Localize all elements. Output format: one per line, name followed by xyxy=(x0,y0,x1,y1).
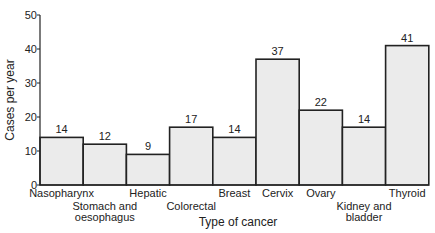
bar-value-label: 22 xyxy=(315,96,327,108)
bar-value-label: 14 xyxy=(358,113,370,125)
x-tick-label: Ovary xyxy=(306,187,336,199)
bar xyxy=(342,127,385,185)
bar-value-label: 37 xyxy=(271,45,283,57)
y-tick-label: 30 xyxy=(25,77,37,89)
bars: 14129171437221441 xyxy=(40,32,429,185)
bar-value-label: 14 xyxy=(228,123,240,135)
bar xyxy=(83,144,126,185)
x-tick-label: Colorectal xyxy=(166,200,216,212)
bar-value-label: 41 xyxy=(401,32,413,44)
x-tick-label: Breast xyxy=(219,187,251,199)
y-axis-label: Cases per year xyxy=(3,59,17,140)
bar xyxy=(126,154,169,185)
y-tick-label: 10 xyxy=(25,145,37,157)
bar-value-label: 14 xyxy=(55,123,67,135)
x-tick-label: Cervix xyxy=(262,187,294,199)
bar xyxy=(170,127,213,185)
x-tick-label: Hepatic xyxy=(129,187,167,199)
bar xyxy=(213,137,256,185)
y-tick-label: 50 xyxy=(25,9,37,21)
y-tick-label: 20 xyxy=(25,111,37,123)
bar xyxy=(40,137,83,185)
bar xyxy=(299,110,342,185)
x-tick-label: Thyroid xyxy=(389,187,426,199)
bar xyxy=(386,46,429,185)
x-axis-label: Type of cancer xyxy=(199,215,278,229)
bar-chart: 14129171437221441 01020304050 Nasopharyn… xyxy=(0,0,435,233)
x-tick-label: Nasopharynx xyxy=(29,187,94,199)
x-tick-label: oesophagus xyxy=(75,211,135,223)
bar xyxy=(256,59,299,185)
bar-value-label: 9 xyxy=(145,140,151,152)
x-tick-label: bladder xyxy=(346,211,383,223)
bar-value-label: 12 xyxy=(99,130,111,142)
bar-value-label: 17 xyxy=(185,113,197,125)
y-tick-label: 40 xyxy=(25,43,37,55)
